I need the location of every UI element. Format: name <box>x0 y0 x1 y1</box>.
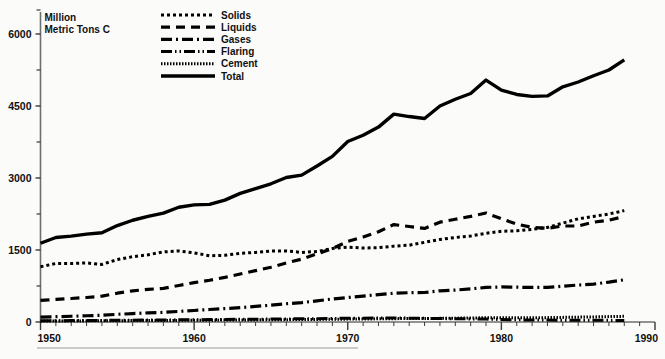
series-line-gases <box>41 280 625 317</box>
legend-label-flaring: Flaring <box>221 46 254 57</box>
x-tick-label: 1980 <box>490 332 514 344</box>
unit-label-line1: Million <box>45 12 77 23</box>
x-tick-label: 1970 <box>336 332 360 344</box>
x-tick-label: 1990 <box>635 332 659 344</box>
x-tick-label: 1950 <box>38 332 62 344</box>
y-tick-label: 4500 <box>8 100 32 112</box>
legend-label-liquids: Liquids <box>221 22 257 33</box>
series-line-liquids <box>41 213 625 300</box>
series-line-total <box>41 60 625 243</box>
y-tick-label: 3000 <box>8 172 32 184</box>
chart-container: 0150030004500600019501960197019801990Mil… <box>0 0 665 359</box>
y-tick-label: 1500 <box>8 244 32 256</box>
y-tick-label: 0 <box>26 316 32 328</box>
unit-label-line2: Metric Tons C <box>45 24 110 35</box>
series-line-solids <box>41 211 625 267</box>
emissions-line-chart: 0150030004500600019501960197019801990Mil… <box>0 0 665 359</box>
legend-label-gases: Gases <box>221 34 251 45</box>
legend-label-total: Total <box>221 71 244 82</box>
y-tick-label: 6000 <box>8 28 32 40</box>
legend-label-cement: Cement <box>221 58 258 69</box>
legend-label-solids: Solids <box>221 10 251 21</box>
x-tick-label: 1960 <box>182 332 206 344</box>
